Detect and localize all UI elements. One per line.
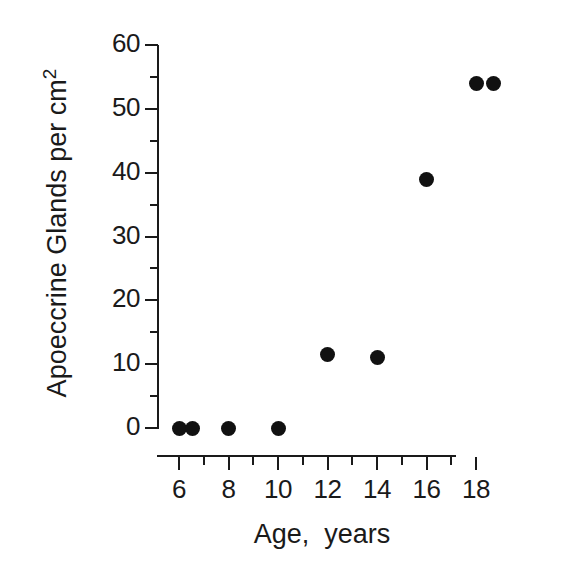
data-point xyxy=(419,172,434,187)
y-tick-label: 30 xyxy=(80,220,140,251)
y-axis-title-text: Apoeccrine Glands per cm xyxy=(42,79,72,397)
x-tick-major xyxy=(475,457,477,470)
data-point xyxy=(271,421,286,436)
y-tick-minor xyxy=(150,395,158,397)
data-point xyxy=(221,421,236,436)
data-point xyxy=(370,350,385,365)
data-point xyxy=(486,76,501,91)
scatter-plot-figure: 6810121416180102030405060 Age, years Apo… xyxy=(0,0,574,582)
data-point xyxy=(185,421,200,436)
y-tick-major xyxy=(145,363,158,365)
x-tick-minor xyxy=(203,457,205,465)
y-tick-label: 50 xyxy=(80,92,140,123)
y-tick-minor xyxy=(150,76,158,78)
x-tick-major xyxy=(426,457,428,470)
plot-area: 6810121416180102030405060 Age, years Apo… xyxy=(0,0,574,582)
x-tick-minor xyxy=(252,457,254,465)
x-tick-major xyxy=(228,457,230,470)
y-tick-label: 60 xyxy=(80,28,140,59)
y-tick-major xyxy=(145,427,158,429)
x-tick-minor xyxy=(351,457,353,465)
y-tick-major xyxy=(145,108,158,110)
x-tick-major xyxy=(327,457,329,470)
y-tick-label: 10 xyxy=(80,347,140,378)
x-tick-minor xyxy=(450,457,452,465)
y-tick-minor xyxy=(150,140,158,142)
y-tick-label: 40 xyxy=(80,156,140,187)
x-tick-minor xyxy=(302,457,304,465)
y-tick-major xyxy=(145,172,158,174)
x-axis-title: Age, years xyxy=(157,519,487,550)
y-tick-minor xyxy=(150,331,158,333)
x-tick-major xyxy=(376,457,378,470)
y-tick-label: 20 xyxy=(80,283,140,314)
x-tick-major xyxy=(178,457,180,470)
y-tick-major xyxy=(145,299,158,301)
y-tick-minor xyxy=(150,267,158,269)
y-tick-minor xyxy=(150,204,158,206)
y-tick-major xyxy=(145,236,158,238)
x-tick-minor xyxy=(401,457,403,465)
data-point xyxy=(320,347,335,362)
y-axis-title: Apoeccrine Glands per cm2 xyxy=(39,23,73,443)
y-tick-label: 0 xyxy=(80,411,140,442)
y-axis-title-superscript: 2 xyxy=(39,69,60,80)
x-tick-major xyxy=(277,457,279,470)
x-tick-label: 18 xyxy=(446,474,506,505)
data-point xyxy=(469,76,484,91)
y-tick-major xyxy=(145,44,158,46)
